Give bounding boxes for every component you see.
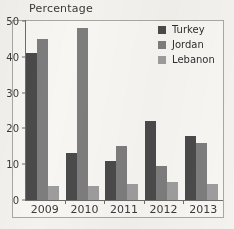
- legend-swatch-icon: [158, 26, 166, 34]
- bar-lebanon-2011: [127, 184, 138, 200]
- x-tick-label: 2013: [189, 203, 217, 216]
- bar-jordan-2013: [196, 143, 207, 200]
- legend-item-jordan: Jordan: [158, 39, 215, 50]
- y-tick-label: 0: [0, 195, 23, 206]
- y-tick-label: 50: [0, 16, 23, 27]
- chart-legend: Turkey Jordan Lebanon: [158, 24, 215, 69]
- x-tick-mark: [144, 200, 145, 204]
- y-tick-label: 10: [0, 159, 23, 170]
- bar-turkey-2011: [105, 161, 116, 200]
- y-tick-label: 40: [0, 51, 23, 62]
- x-tick-mark: [104, 200, 105, 204]
- legend-swatch-icon: [158, 41, 166, 49]
- legend-label: Jordan: [172, 39, 204, 50]
- legend-label: Lebanon: [172, 54, 215, 65]
- bar-turkey-2013: [185, 136, 196, 200]
- bar-lebanon-2012: [167, 182, 178, 200]
- bar-turkey-2012: [145, 121, 156, 200]
- x-tick-label: 2011: [110, 203, 138, 216]
- bar-group: [25, 21, 65, 200]
- y-tick-label: 20: [0, 123, 23, 134]
- bar-group: [65, 21, 105, 200]
- bar-lebanon-2013: [207, 184, 218, 200]
- bar-jordan-2012: [156, 166, 167, 200]
- legend-item-lebanon: Lebanon: [158, 54, 215, 65]
- legend-label: Turkey: [172, 24, 205, 35]
- x-tick-label: 2010: [70, 203, 98, 216]
- bar-group: [104, 21, 144, 200]
- y-axis-label: Percentage: [29, 2, 93, 15]
- bar-jordan-2009: [37, 39, 48, 200]
- bar-jordan-2011: [116, 146, 127, 200]
- bar-lebanon-2010: [88, 186, 99, 200]
- chart-figure: Percentage 01020304050 20092010201120122…: [0, 0, 234, 229]
- bar-turkey-2009: [26, 53, 37, 200]
- y-tick-label: 30: [0, 87, 23, 98]
- bar-turkey-2010: [66, 153, 77, 200]
- bar-jordan-2010: [77, 28, 88, 200]
- x-tick-mark: [183, 200, 184, 204]
- x-tick-mark: [65, 200, 66, 204]
- x-axis-line: [25, 200, 223, 201]
- x-tick-label: 2012: [150, 203, 178, 216]
- legend-swatch-icon: [158, 56, 166, 64]
- x-tick-label: 2009: [31, 203, 59, 216]
- legend-item-turkey: Turkey: [158, 24, 215, 35]
- bar-lebanon-2009: [48, 186, 59, 200]
